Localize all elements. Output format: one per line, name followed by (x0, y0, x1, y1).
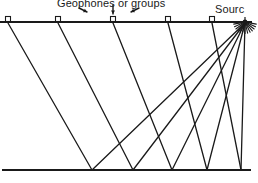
raypath-group (8, 23, 245, 170)
raypath-downgoing-g1 (8, 23, 92, 170)
arrowhead-icon-a2 (111, 11, 115, 14)
interface-lines-group (0, 22, 252, 170)
raypath-upgoing-g2 (133, 23, 245, 170)
diagram-canvas: Geophones or groups Sourc (0, 0, 258, 183)
raypath-upgoing-g1 (92, 23, 245, 170)
geophone-marker-group (6, 17, 215, 22)
geophone-marker-g5 (210, 17, 215, 22)
geophone-marker-g3 (111, 17, 116, 22)
raypath-downgoing-g4 (168, 23, 207, 170)
geophone-marker-g4 (166, 17, 171, 22)
geophones-label: Geophones or groups (57, 0, 165, 9)
raypath-upgoing-g3 (172, 23, 245, 170)
raypath-figure (0, 0, 258, 183)
geophone-marker-g2 (56, 17, 61, 22)
raypath-upgoing-g5 (241, 23, 245, 170)
raypath-downgoing-g5 (212, 23, 241, 170)
geophone-marker-g1 (6, 17, 11, 22)
source-label: Sourc (215, 3, 244, 15)
